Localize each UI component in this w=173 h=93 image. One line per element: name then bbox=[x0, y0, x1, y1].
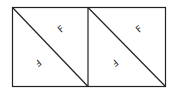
cell-1-lower-label: F bbox=[33, 57, 43, 68]
cell-2-lower-label: F bbox=[110, 57, 120, 68]
outer-frame bbox=[13, 8, 166, 87]
diagram-canvas: F F F F bbox=[0, 0, 173, 93]
cell-1-diagonal bbox=[13, 8, 89, 87]
cell-1-upper-label: F bbox=[56, 24, 66, 35]
cell-2-upper-label: F bbox=[134, 24, 144, 35]
cell-2-diagonal bbox=[88, 8, 166, 87]
